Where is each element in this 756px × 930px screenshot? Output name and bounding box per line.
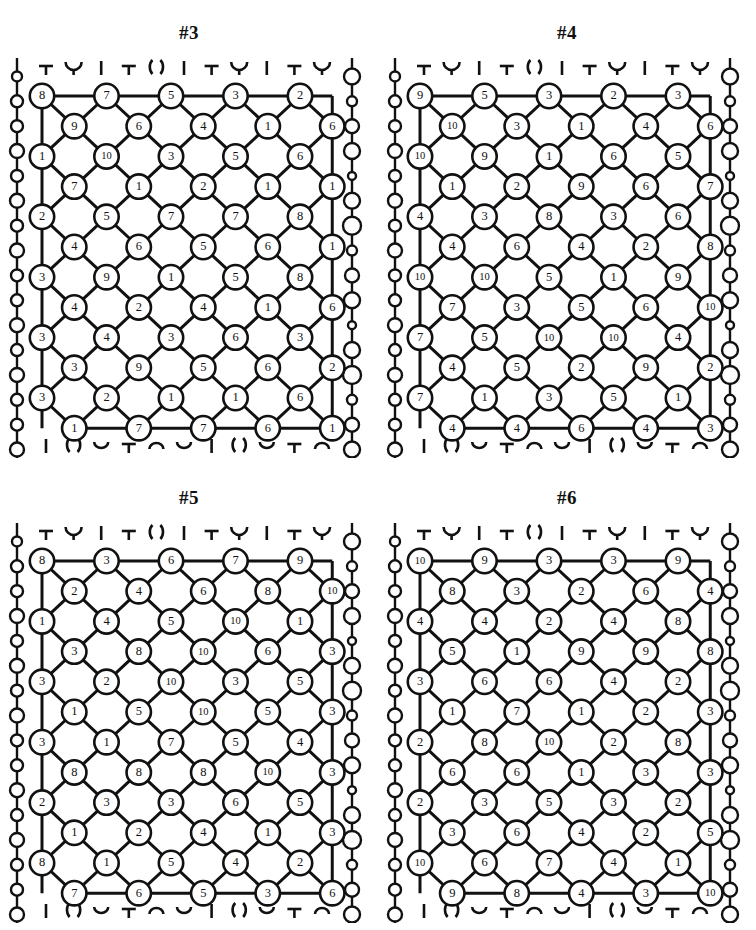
lattice-node[interactable]: 2 [666,670,690,694]
lattice-node[interactable]: 8 [698,235,722,259]
lattice-node[interactable]: 5 [698,821,722,845]
lattice-node[interactable]: 4 [408,609,432,633]
lattice-node[interactable]: 4 [440,235,464,259]
lattice-node[interactable]: 1 [537,144,561,168]
lattice-node[interactable]: 9 [569,174,593,198]
lattice-node[interactable]: 1 [320,174,344,198]
lattice-node[interactable]: 8 [30,549,54,573]
lattice-node[interactable]: 6 [288,144,312,168]
lattice-node[interactable]: 10 [223,609,247,633]
lattice-node[interactable]: 3 [601,790,625,814]
lattice-node[interactable]: 5 [666,144,690,168]
lattice-node[interactable]: 6 [127,235,151,259]
lattice-node[interactable]: 9 [440,881,464,905]
lattice-node[interactable]: 1 [159,386,183,410]
lattice-node[interactable]: 3 [505,579,529,603]
lattice-node[interactable]: 5 [223,265,247,289]
lattice-node[interactable]: 5 [601,386,625,410]
lattice-node[interactable]: 8 [30,851,54,875]
lattice-node[interactable]: 6 [191,579,215,603]
lattice-node[interactable]: 8 [666,730,690,754]
lattice-node[interactable]: 3 [440,821,464,845]
lattice-node[interactable]: 5 [440,639,464,663]
lattice-node[interactable]: 9 [62,114,86,138]
lattice-node[interactable]: 5 [191,881,215,905]
lattice-node[interactable]: 4 [288,730,312,754]
lattice-node[interactable]: 2 [634,821,658,845]
lattice-node[interactable]: 1 [320,235,344,259]
lattice-node[interactable]: 2 [601,730,625,754]
lattice-node[interactable]: 8 [288,205,312,229]
lattice-node[interactable]: 5 [288,670,312,694]
lattice-node[interactable]: 3 [634,881,658,905]
lattice-node[interactable]: 3 [698,416,722,440]
lattice-node[interactable]: 8 [505,881,529,905]
lattice-node[interactable]: 1 [62,416,86,440]
lattice-node[interactable]: 4 [505,416,529,440]
lattice-node[interactable]: 2 [569,356,593,380]
lattice-node[interactable]: 6 [256,356,280,380]
lattice-node[interactable]: 9 [666,549,690,573]
lattice-node[interactable]: 3 [159,790,183,814]
lattice-node[interactable]: 5 [159,851,183,875]
lattice-node[interactable]: 6 [127,114,151,138]
lattice-node[interactable]: 6 [472,670,496,694]
lattice-node[interactable]: 2 [62,579,86,603]
lattice-node[interactable]: 1 [223,386,247,410]
lattice-node[interactable]: 3 [505,114,529,138]
lattice-node[interactable]: 10 [256,760,280,784]
lattice-node[interactable]: 2 [127,295,151,319]
lattice-node[interactable]: 6 [223,790,247,814]
lattice-node[interactable]: 6 [601,144,625,168]
lattice-node[interactable]: 3 [94,549,118,573]
lattice-node[interactable]: 4 [127,579,151,603]
lattice-node[interactable]: 4 [191,821,215,845]
lattice-node[interactable]: 8 [127,639,151,663]
lattice-node[interactable]: 6 [288,386,312,410]
lattice-node[interactable]: 7 [408,386,432,410]
lattice-node[interactable]: 6 [634,295,658,319]
lattice-node[interactable]: 2 [569,579,593,603]
lattice-node[interactable]: 2 [698,356,722,380]
lattice-node[interactable]: 1 [505,639,529,663]
lattice-node[interactable]: 6 [505,760,529,784]
lattice-node[interactable]: 7 [408,325,432,349]
lattice-node[interactable]: 2 [634,235,658,259]
lattice-node[interactable]: 7 [127,416,151,440]
lattice-node[interactable]: 3 [505,295,529,319]
lattice-node[interactable]: 10 [408,265,432,289]
lattice-node[interactable]: 3 [601,549,625,573]
lattice-node[interactable]: 2 [408,730,432,754]
lattice-node[interactable]: 10 [320,579,344,603]
lattice-node[interactable]: 6 [440,760,464,784]
lattice-node[interactable]: 4 [191,295,215,319]
lattice-node[interactable]: 1 [94,730,118,754]
lattice-node[interactable]: 9 [569,639,593,663]
lattice-node[interactable]: 4 [472,609,496,633]
lattice-node[interactable]: 3 [537,84,561,108]
lattice-node[interactable]: 2 [127,821,151,845]
lattice-node[interactable]: 1 [127,174,151,198]
lattice-node[interactable]: 2 [94,670,118,694]
lattice-node[interactable]: 3 [30,730,54,754]
lattice-node[interactable]: 4 [698,579,722,603]
lattice-node[interactable]: 10 [408,549,432,573]
lattice-node[interactable]: 8 [30,84,54,108]
lattice-node[interactable]: 10 [159,670,183,694]
lattice-node[interactable]: 1 [472,386,496,410]
lattice-node[interactable]: 6 [223,325,247,349]
lattice-node[interactable]: 4 [666,325,690,349]
lattice-node[interactable]: 4 [94,609,118,633]
lattice-node[interactable]: 9 [634,356,658,380]
lattice-node[interactable]: 8 [62,760,86,784]
lattice-node[interactable]: 2 [30,790,54,814]
lattice-node[interactable]: 10 [472,265,496,289]
lattice-node[interactable]: 1 [256,174,280,198]
lattice-node[interactable]: 2 [30,205,54,229]
lattice-node[interactable]: 1 [569,760,593,784]
lattice-node[interactable]: 6 [634,579,658,603]
lattice-node[interactable]: 1 [320,416,344,440]
lattice-node[interactable]: 10 [698,295,722,319]
lattice-node[interactable]: 1 [288,609,312,633]
lattice-node[interactable]: 4 [408,205,432,229]
